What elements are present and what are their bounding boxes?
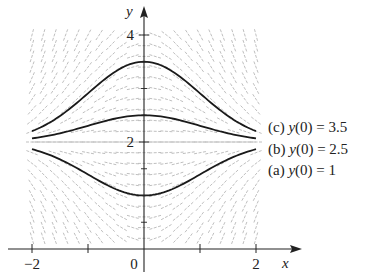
slope-segment (40, 83, 46, 93)
slope-segment (174, 30, 182, 39)
slope-segment (40, 94, 47, 104)
slope-segment (220, 222, 225, 233)
slope-segment (149, 66, 161, 69)
slope-segment (242, 83, 248, 93)
slope-field-diagram: −20224xy (c) y(0) = 3.5(b) y(0) = 2.5(a)… (0, 0, 372, 274)
slope-segment (242, 201, 247, 212)
slope-segment (220, 233, 225, 244)
slope-segment (60, 118, 71, 124)
slope-segment (116, 162, 128, 164)
slope-segment (231, 62, 236, 73)
slope-segment (105, 97, 116, 102)
slope-segment (185, 213, 193, 222)
slope-segment (49, 160, 59, 166)
slope-segment (161, 235, 171, 242)
slope-segment (52, 222, 57, 233)
slope-segment (42, 29, 45, 41)
slope-segment (184, 202, 193, 210)
slope-segment (41, 222, 45, 233)
slope-segment (28, 170, 36, 179)
slope-segment (29, 83, 35, 94)
slope-segment (149, 163, 161, 164)
slope-segment (172, 172, 183, 176)
slope-segment (231, 211, 236, 222)
slope-segment (185, 223, 193, 232)
slope-segment (105, 172, 116, 176)
slope-segment (161, 173, 173, 176)
slope-segment (194, 161, 205, 165)
slope-segment (74, 212, 80, 222)
slope-segment (51, 190, 58, 200)
curve-labels: (c) y(0) = 3.5(b) y(0) = 2.5(a) y(0) = 1 (268, 119, 348, 179)
x-axis-label: x (281, 255, 289, 271)
slope-segment (105, 203, 115, 210)
slope-segment (253, 180, 260, 190)
slope-segment (127, 205, 139, 208)
slope-segment (161, 183, 172, 187)
slope-segment (30, 29, 33, 41)
slope-segment (194, 118, 205, 122)
slope-segment (173, 224, 182, 232)
slope-segment (219, 84, 226, 94)
slope-segment (116, 75, 127, 80)
slope-segment (63, 212, 69, 223)
slope-segment (30, 222, 34, 233)
slope-segment (38, 129, 49, 133)
slope-segment (62, 95, 70, 104)
slope-segment (161, 214, 172, 220)
slope-segment (29, 94, 36, 104)
slope-segment (160, 152, 172, 153)
slope-segment (149, 205, 161, 208)
slope-segment (96, 233, 103, 243)
slope-segment (104, 152, 116, 153)
slope-segment (62, 191, 69, 201)
slope-segment (85, 30, 91, 41)
slope-segment (41, 62, 46, 73)
slope-segment (71, 118, 82, 123)
slope-segment (106, 41, 114, 50)
slope-segment (241, 170, 249, 179)
slope-segment (61, 170, 70, 178)
slope-segment (30, 72, 35, 83)
y-axis-label: y (124, 3, 133, 19)
slope-segment (183, 152, 195, 154)
slope-segment (127, 226, 138, 230)
slope-segment (84, 62, 91, 72)
slope-segment (150, 44, 161, 48)
slope-segment (73, 201, 80, 211)
slope-segment (127, 44, 138, 48)
slope-segment (73, 191, 81, 200)
slope-segment (232, 233, 236, 244)
slope-segment (161, 42, 171, 49)
slope-segment (196, 202, 204, 211)
slope-segment (254, 72, 259, 83)
slope-segment (52, 40, 56, 51)
slope-segment (127, 76, 139, 79)
plot-canvas: −20224xy (c) y(0) = 3.5(b) y(0) = 2.5(a)… (0, 0, 372, 274)
slope-segment (127, 98, 139, 100)
slope-segment (116, 53, 126, 59)
slope-segment (161, 75, 172, 80)
slope-segment (185, 233, 192, 243)
slope-segment (253, 94, 260, 104)
slope-segment (185, 63, 193, 72)
slope-segment (82, 161, 93, 165)
slope-segment (228, 160, 238, 166)
slope-segment (251, 117, 261, 124)
slope-segment (206, 171, 216, 178)
slope-segment (94, 107, 105, 112)
slope-segment (220, 212, 226, 223)
slope-segment (30, 40, 33, 52)
slope-segment (231, 222, 236, 233)
slope-segment (30, 201, 35, 212)
slope-segment (241, 94, 248, 104)
slope-segment (127, 163, 139, 164)
slope-segment (161, 53, 171, 59)
slope-segment (230, 190, 237, 200)
slope-segment (206, 118, 217, 123)
slope-segment (173, 41, 181, 50)
slope-segment (30, 61, 34, 72)
slope-segment (185, 41, 192, 51)
slope-segment (105, 162, 117, 165)
slope-segment (229, 170, 238, 178)
